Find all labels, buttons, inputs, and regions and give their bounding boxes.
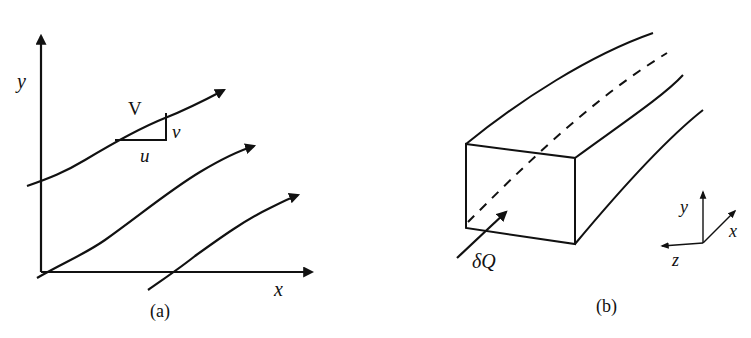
central-streamline (468, 53, 667, 222)
tube-top-left-edge (466, 33, 653, 144)
triad-y-label: y (678, 197, 688, 217)
triad-x-label: x (728, 221, 737, 241)
tube-front-face (466, 144, 575, 244)
tube-bottom-right-edge (575, 110, 703, 244)
panel-a (27, 36, 312, 290)
caption-a: (a) (150, 301, 170, 322)
triad-z-label: z (671, 250, 679, 270)
v-component-label: v (172, 121, 181, 142)
u-component-label: u (140, 145, 150, 166)
flow-label: δQ (472, 250, 496, 272)
y-axis-label: y (15, 70, 26, 93)
triad-z-axis (662, 243, 703, 246)
panel-b (457, 33, 735, 258)
caption-b: (b) (596, 296, 617, 317)
figure: y x V v u (a) δQ y x z (b) (0, 0, 751, 338)
velocity-label: V (128, 98, 142, 119)
streamline-bottom (148, 195, 298, 290)
x-axis-label: x (273, 278, 283, 300)
tube-top-right-edge (575, 75, 683, 158)
streamline-top (27, 90, 224, 186)
